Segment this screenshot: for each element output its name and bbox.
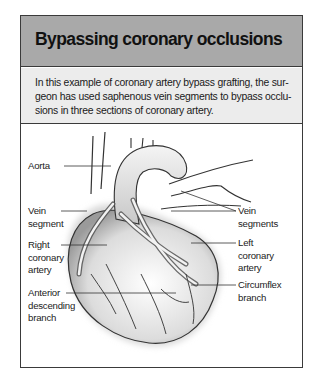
label-circumflex-branch: Circumflex branch (238, 279, 281, 304)
label-anterior-descending-branch: Anterior descending branch (28, 287, 75, 325)
figure-title: Bypassing coronary occlusions (35, 29, 282, 50)
figure-box: Bypassing coronary occlusions In this ex… (20, 15, 303, 368)
label-aorta: Aorta (28, 160, 50, 173)
figure-caption: In this example of coronary artery bypas… (35, 76, 295, 118)
label-right-coronary-artery: Right coronary artery (28, 239, 64, 277)
label-vein-segments: Vein segments (238, 205, 278, 230)
label-left-coronary-artery: Left coronary artery (238, 237, 274, 275)
label-vein-segment: Vein segment (28, 205, 63, 230)
figure-caption-panel: In this example of coronary artery bypas… (21, 68, 302, 124)
figure-header: Bypassing coronary occlusions (21, 16, 302, 67)
heart-illustration: Aorta Vein segment Right coronary artery… (21, 124, 302, 367)
aorta-shape (114, 146, 186, 224)
